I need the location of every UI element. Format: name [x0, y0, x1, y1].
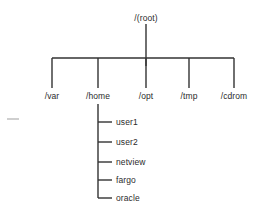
node-label-opt: /opt	[139, 91, 154, 101]
node-label-cdrom: /cdrom	[221, 91, 248, 101]
node-label-user1: user1	[116, 117, 138, 127]
node-label-netview: netview	[116, 157, 146, 167]
filesystem-tree-diagram: /(root) /var /home /opt /tmp /cdrom user…	[0, 0, 258, 211]
node-label-var: /var	[45, 91, 60, 101]
root-label: /(root)	[134, 13, 157, 23]
stray-dash-mark	[7, 118, 19, 120]
node-label-fargo: fargo	[116, 175, 136, 185]
node-label-oracle: oracle	[116, 193, 140, 203]
node-label-user2: user2	[116, 137, 138, 147]
node-label-home: /home	[86, 91, 110, 101]
node-label-tmp: /tmp	[181, 91, 198, 101]
